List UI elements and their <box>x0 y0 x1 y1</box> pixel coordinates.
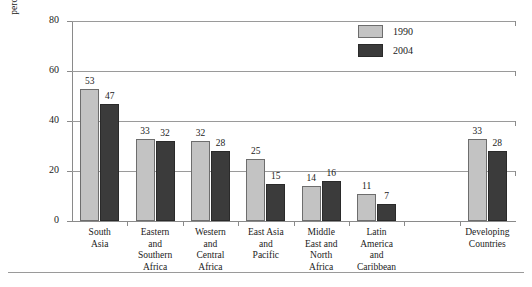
bar-2004: 32 <box>156 141 175 221</box>
bar-group: 2515 <box>238 21 293 221</box>
y-axis-title-line-2: aged 0–59 months <box>20 0 32 15</box>
y-axis-tick-label: 0 <box>54 214 59 225</box>
bar-1990: 14 <box>302 186 321 221</box>
bar-1990: 53 <box>80 89 99 222</box>
bar-2004: 15 <box>266 184 285 222</box>
bar-value-label: 25 <box>251 146 261 156</box>
x-axis-tick <box>127 221 128 226</box>
bar-value-label: 15 <box>271 171 281 181</box>
bar-1990: 33 <box>468 139 487 222</box>
bar-2004: 28 <box>488 151 507 221</box>
legend-label-2004: 2004 <box>393 45 413 56</box>
category-label: Eastern and Southern Africa <box>127 227 182 273</box>
category-label: Western and Central Africa <box>183 227 238 273</box>
bar-value-label: 16 <box>326 168 336 178</box>
bar-value-label: 33 <box>473 126 483 136</box>
x-axis-tick <box>238 221 239 226</box>
legend-swatch-1990-icon <box>358 25 383 38</box>
bar-group: 3228 <box>183 21 238 221</box>
bar-value-label: 28 <box>493 138 503 148</box>
bar-value-label: 11 <box>362 181 371 191</box>
legend-label-1990: 1990 <box>393 26 413 37</box>
bar-value-label: 28 <box>216 138 226 148</box>
bar-1990: 25 <box>246 159 265 222</box>
legend-item-2004: 2004 <box>358 43 413 58</box>
bar-2004: 7 <box>377 204 396 222</box>
bar-1990: 33 <box>136 139 155 222</box>
y-axis-tick-label: 40 <box>49 114 59 125</box>
y-axis-title: percentage underweight children aged 0–5… <box>2 0 38 54</box>
category-label: Latin America and Caribbean <box>349 227 404 273</box>
category-label: South Asia <box>72 227 127 250</box>
bar-value-label: 14 <box>306 173 316 183</box>
bar-value-label: 47 <box>105 91 115 101</box>
y-axis-tick-label: 20 <box>49 164 59 175</box>
bottom-divider <box>8 272 524 273</box>
y-axis-tick: 0 <box>67 221 72 222</box>
category-label: Middle East and North Africa <box>294 227 349 273</box>
x-axis-tick <box>349 221 350 226</box>
y-axis-tick-label: 80 <box>49 14 59 25</box>
bar-chart-figure: percentage underweight children aged 0–5… <box>0 0 532 287</box>
category-label: Developing Countries <box>460 227 515 250</box>
bar-value-label: 33 <box>140 126 150 136</box>
bar-group: 3332 <box>127 21 182 221</box>
bar-2004: 16 <box>322 181 341 221</box>
bar-2004: 47 <box>100 104 119 222</box>
x-axis-tick <box>183 221 184 226</box>
category-label: East Asia and Pacific <box>238 227 293 262</box>
bar-value-label: 7 <box>384 191 389 201</box>
legend-item-1990: 1990 <box>358 24 413 39</box>
bar-1990: 32 <box>191 141 210 221</box>
bar-2004: 28 <box>211 151 230 221</box>
legend-swatch-2004-icon <box>358 44 383 57</box>
bar-value-label: 32 <box>196 128 206 138</box>
y-axis-title-line-1: percentage underweight children <box>9 0 21 15</box>
bar-group: 3328 <box>460 21 515 221</box>
x-axis-tick <box>404 221 405 226</box>
y-axis-tick-label: 60 <box>49 64 59 75</box>
bar-group: 1416 <box>294 21 349 221</box>
x-axis-tick <box>294 221 295 226</box>
bar-value-label: 32 <box>160 128 170 138</box>
bar-value-label: 53 <box>85 76 95 86</box>
bar-1990: 11 <box>357 194 376 222</box>
chart-legend: 1990 2004 <box>358 24 413 62</box>
bar-group: 5347 <box>72 21 127 221</box>
x-axis-tick <box>460 221 461 226</box>
plot-area: 020406080 534733323228251514161173328 So… <box>72 21 515 221</box>
